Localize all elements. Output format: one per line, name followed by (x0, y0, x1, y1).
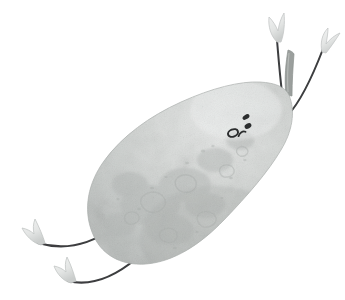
illustration-canvas: A tilted grey pear character with a smal… (0, 0, 345, 300)
pear-character-illustration (0, 0, 345, 300)
pear-body (0, 0, 345, 300)
